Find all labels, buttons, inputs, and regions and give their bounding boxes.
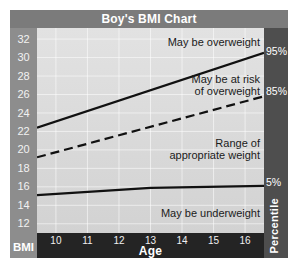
percentile-85-label: 85% <box>266 85 288 97</box>
y-tick-label: 22 <box>10 125 37 138</box>
annotation-underweight: May be underweight <box>161 207 260 219</box>
y-tick-label: 20 <box>10 143 37 156</box>
bmi-chart-figure: Boy's BMI Chart 1214161820222426283032 B… <box>0 0 296 267</box>
chart-frame: Boy's BMI Chart 1214161820222426283032 B… <box>10 10 288 258</box>
x-axis-bar: 16151413121110 Age <box>37 233 264 258</box>
x-axis-title: Age <box>37 244 264 258</box>
chart-lines <box>37 28 264 233</box>
percentile-95-label: 95% <box>266 45 288 57</box>
chart-title: Boy's BMI Chart <box>10 10 288 28</box>
y-tick-label: 30 <box>10 51 37 64</box>
y-axis-column: 1214161820222426283032 BMI <box>10 28 37 258</box>
annotation-overweight: May be overweight <box>168 36 260 48</box>
y-tick-label: 14 <box>10 199 37 212</box>
y-tick-label: 18 <box>10 162 37 175</box>
y-axis-title: BMI <box>10 240 37 254</box>
percentile-5-label: 5% <box>266 176 288 188</box>
percentile-column: 95% 85% 5% Percentile <box>264 28 288 258</box>
y-tick-label: 12 <box>10 217 37 230</box>
y-tick-label: 16 <box>10 180 37 193</box>
plot-area: May be overweight May be at risk of over… <box>37 28 264 233</box>
y-tick-label: 24 <box>10 107 37 120</box>
annotation-at-risk: May be at risk of overweight <box>192 73 260 97</box>
y-tick-label: 26 <box>10 88 37 101</box>
percentile-axis-title: Percentile <box>268 198 280 254</box>
y-tick-label: 28 <box>10 70 37 83</box>
annotation-appropriate-range: Range of appropriate weight <box>169 137 260 161</box>
y-tick-label: 32 <box>10 33 37 46</box>
